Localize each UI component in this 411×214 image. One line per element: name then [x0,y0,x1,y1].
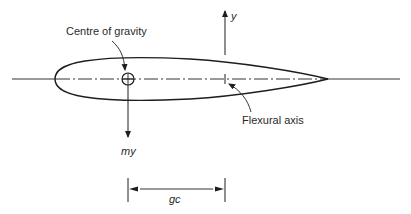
gc-dimension-label: gc [169,193,181,205]
aerofoil-diagram: my y Centre of gravity Flexural axis gc [0,0,411,214]
centre-of-gravity-marker [122,73,134,85]
flexural-axis-label: Flexural axis [242,114,304,126]
inertia-force-label: my [121,145,137,157]
flexural-axis-leader [229,84,251,112]
displacement-label: y [230,10,238,22]
centre-of-gravity-leader [112,41,125,70]
centre-of-gravity-label: Centre of gravity [66,25,147,37]
